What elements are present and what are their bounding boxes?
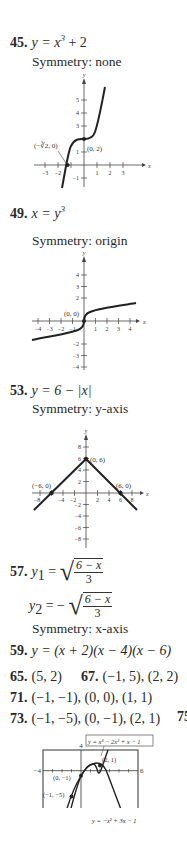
svg-text:(0, 2): (0, 2) [87,145,103,153]
svg-text:2: 2 [76,295,79,301]
svg-text:x: x [147,163,151,169]
svg-text:(0, −1): (0, −1) [53,774,71,782]
problem-71: 71. (−1, −1), (0, 0), (1, 1) [10,688,152,706]
svg-text:3: 3 [122,170,125,176]
problem-number: 45. [10,35,28,50]
svg-text:x: x [145,491,149,497]
problem-65: 65. (5, 2) [10,667,62,685]
svg-text:−8: −8 [75,536,81,542]
problem-75-number: 75 [177,709,187,725]
problem-45-header: 45. y = x3 + 2 [10,33,87,51]
svg-text:4: 4 [79,742,83,750]
svg-text:−3: −3 [42,170,48,176]
svg-text:y: y [82,72,86,78]
problem-73: 73. (−1, −5), (0, −1), (2, 1) [10,709,160,727]
problem-number: 53. [10,383,28,398]
svg-text:−2: −2 [73,341,79,347]
svg-text:1: 1 [76,149,79,155]
graph-45: y x −3 −2 1 2 3 5 4 3 1 −1 (−∛2, 0) (0, … [0,72,187,192]
svg-text:4: 4 [129,326,132,332]
svg-text:y: y [82,252,86,256]
svg-text:5: 5 [76,97,79,103]
svg-text:−4: −4 [35,326,41,332]
svg-text:(−∛2, 0): (−∛2, 0) [34,141,58,150]
svg-text:6: 6 [78,456,81,462]
svg-text:(6, 0): (6, 0) [116,482,132,490]
svg-text:3: 3 [76,284,79,290]
graph-73: 4 −8 −4 6 (2, 1) (0, −1) (−1, −5) y = x³… [0,728,187,808]
problem-number: 57. [10,564,28,579]
svg-text:−4: −4 [73,364,79,370]
svg-text:(−1, −5): (−1, −5) [43,791,64,799]
svg-text:(0, 6): (0, 6) [90,456,106,464]
equation: y = 6 − |x| [32,383,92,398]
svg-text:2: 2 [109,170,112,176]
equation: x = y3 [32,206,65,221]
svg-text:−1: −1 [73,175,79,181]
svg-text:2: 2 [78,479,81,485]
svg-text:−4: −4 [34,767,42,775]
symmetry-text: Symmetry: x-axis [32,621,128,637]
svg-text:4: 4 [76,110,79,116]
problem-57-y2: y2 = − √6 − x3 [29,592,112,620]
equation: y = x3 + 2 [32,35,87,50]
svg-text:(0, 0): (0, 0) [64,310,80,318]
sqrt-symbol: √ [60,559,74,585]
svg-text:−3: −3 [73,353,79,359]
svg-text:(2, 1): (2, 1) [102,756,116,764]
problem-number: 49. [10,206,28,221]
symmetry-text: Symmetry: origin [32,233,128,249]
svg-text:6: 6 [140,767,144,775]
problem-57-y1: 57. y1 = √6 − x3 [10,558,103,586]
svg-text:−2: −2 [55,170,61,176]
svg-text:4: 4 [78,467,81,473]
svg-text:4: 4 [76,272,79,278]
curve2-label: y = −x² + 3x − 1 [92,817,136,824]
svg-text:1: 1 [96,170,99,176]
svg-text:−8: −8 [34,497,40,503]
svg-text:−4: −4 [75,513,81,519]
svg-text:3: 3 [76,123,79,129]
svg-text:−2: −2 [75,502,81,508]
svg-text:x: x [142,319,146,325]
svg-text:8: 8 [78,444,81,450]
svg-text:1: 1 [94,326,97,332]
sqrt-symbol: √ [69,593,83,619]
svg-text:6: 6 [119,497,122,503]
svg-text:−4: −4 [58,497,64,503]
svg-text:8: 8 [131,497,134,503]
problem-67: 67. (−1, 5), (2, 2) [81,667,178,685]
svg-text:y: y [84,430,88,434]
svg-text:(−6, 0): (−6, 0) [32,482,52,490]
problem-59: 59. y = (x + 2)(x − 4)(x − 6) [10,641,171,659]
svg-text:−6: −6 [75,525,81,531]
svg-text:−2: −2 [58,326,64,332]
svg-text:2: 2 [106,326,109,332]
svg-text:4: 4 [108,497,111,503]
svg-text:3: 3 [117,326,120,332]
symmetry-text: Symmetry: none [32,54,122,70]
svg-text:−3: −3 [46,326,52,332]
svg-text:y = x³ − 2x² + x − 1: y = x³ − 2x² + x − 1 [87,738,140,745]
problem-49-header: 49. x = y3 [10,204,65,222]
graph-49: y x −4 −3 −2 −1 1 2 3 4 4 3 2 −2 −3 −4 (… [0,252,187,370]
symmetry-text: Symmetry: y-axis [32,401,128,417]
graph-53: y x −8 −4 −2 2 4 6 8 8 6 4 2 −2 −4 −6 −8… [0,430,187,550]
problem-53-header: 53. y = 6 − |x| [10,381,92,399]
svg-text:2: 2 [96,497,99,503]
